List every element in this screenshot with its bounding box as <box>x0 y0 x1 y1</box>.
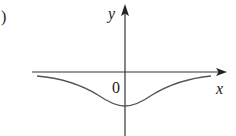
y-axis <box>121 4 129 136</box>
function-graph: ) y x 0 <box>0 0 236 136</box>
function-curve <box>37 76 211 106</box>
origin-label: 0 <box>112 79 120 96</box>
part-marker: ) <box>1 8 6 26</box>
x-axis <box>32 68 227 76</box>
x-axis-label: x <box>215 80 223 97</box>
y-axis-label: y <box>106 5 116 23</box>
